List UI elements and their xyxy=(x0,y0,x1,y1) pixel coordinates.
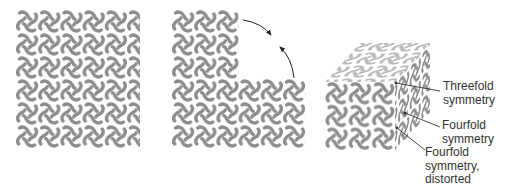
leader-threefold-dot xyxy=(395,82,398,85)
leader-fourfold-dot xyxy=(404,112,407,115)
leader-fourfold-distorted-dot xyxy=(396,127,399,130)
label-line: Fourfold xyxy=(425,146,479,160)
label-line: distorted xyxy=(425,173,479,187)
label-fourfold-symmetry-distorted: Fourfold symmetry, distorted xyxy=(425,146,479,187)
flat-sheet-panel xyxy=(16,10,140,148)
cube-front-face xyxy=(325,82,395,150)
flat-sheet-lattice xyxy=(16,10,140,148)
folding-sheet-panel xyxy=(172,10,305,148)
label-line: symmetry xyxy=(442,133,494,147)
fold-arrow-down-icon xyxy=(243,20,271,35)
cube-top-face xyxy=(325,43,470,82)
cube-right-face xyxy=(395,2,431,152)
label-line: symmetry xyxy=(443,94,495,108)
label-line: Fourfold xyxy=(442,119,494,133)
label-line: Threefold xyxy=(443,80,495,94)
upper-block-lattice xyxy=(172,10,239,79)
fold-arrow-up-icon xyxy=(280,47,294,78)
label-fourfold-symmetry: Fourfold symmetry xyxy=(442,119,494,146)
label-threefold-symmetry: Threefold symmetry xyxy=(443,80,495,107)
label-line: symmetry, xyxy=(425,160,479,174)
lower-block-lattice xyxy=(172,79,305,148)
